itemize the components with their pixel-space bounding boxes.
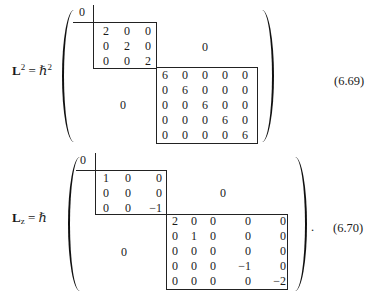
matrix-cell: −1 — [216, 259, 251, 274]
block-divider — [76, 170, 96, 171]
matrix-cell: 0 — [251, 244, 286, 259]
matrix-cell: 6 — [168, 83, 188, 98]
right-parenthesis — [295, 157, 307, 291]
matrix-cell: 0 — [208, 68, 228, 83]
matrix-cell: 0 — [158, 113, 168, 128]
matrix-cell: 2 — [131, 54, 151, 69]
matrix-cell: 0 — [169, 274, 178, 289]
matrix-cell: 0 — [208, 128, 228, 143]
matrix-cell: 0 — [178, 259, 197, 274]
left-parenthesis — [68, 157, 80, 291]
hbar-exponent: 2 — [47, 62, 52, 72]
matrix-cell: 0 — [251, 229, 286, 244]
matrix-cell: 0 — [208, 98, 228, 113]
matrix-cell: 0 — [110, 54, 130, 69]
operator-symbol: L — [12, 210, 21, 225]
matrix-cell: 0 — [216, 244, 251, 259]
matrix-cell: 6 — [228, 128, 248, 143]
matrix-cell: 2 — [97, 24, 109, 39]
block-divider — [73, 22, 94, 23]
block-3x3-values: 2 0 0 0 2 0 0 0 2 — [97, 24, 151, 69]
matrix-cell: 0 — [158, 83, 168, 98]
operator-symbol: L — [12, 63, 21, 78]
matrix-cell: 0 — [132, 186, 162, 201]
matrix-cell: 0 — [251, 259, 286, 274]
matrix-cell: 0 — [99, 201, 109, 216]
matrix-cell: 0 — [178, 244, 197, 259]
matrix-cell: 0 — [178, 214, 197, 229]
matrix-cell: 0 — [169, 259, 178, 274]
matrix-cell: 0 — [197, 244, 216, 259]
block-5x5-values: 2 0 0 0 0 0 1 0 0 0 0 0 0 0 0 0 0 0 −1 0… — [169, 214, 286, 289]
matrix-cell: 0 — [216, 274, 251, 289]
matrix-cell: 0 — [251, 214, 286, 229]
matrix-cell: 0 — [178, 274, 197, 289]
matrix-cell: 0 — [131, 24, 151, 39]
lhs-L-squared: L2 = ℏ2 — [12, 62, 52, 79]
matrix-cell: 1 — [99, 171, 109, 186]
left-parenthesis — [62, 10, 74, 142]
lhs-L-z: Lz = ℏ — [12, 210, 47, 226]
matrix-cell: 0 — [197, 259, 216, 274]
matrix-cell: 0 — [216, 229, 251, 244]
matrix-cell: 0 — [169, 229, 178, 244]
matrix-cell: 0 — [197, 214, 216, 229]
matrix-cell: 0 — [168, 98, 188, 113]
matrix-cell-top-left: 0 — [79, 5, 85, 20]
matrix-cell: 0 — [168, 128, 188, 143]
matrix-cell: 0 — [216, 214, 251, 229]
off-diagonal-zero-lower: 0 — [120, 98, 126, 113]
trailing-period: . — [311, 220, 314, 235]
matrix-cell: 0 — [168, 68, 188, 83]
block-divider — [95, 153, 96, 171]
matrix-cell: 0 — [110, 171, 131, 186]
matrix-cell: 0 — [197, 274, 216, 289]
matrix-cell-top-left: 0 — [80, 153, 86, 168]
off-diagonal-zero-upper: 0 — [202, 40, 208, 55]
matrix-cell: 0 — [97, 39, 109, 54]
matrix-cell: 0 — [188, 113, 208, 128]
block-3x3-values: 1 0 0 0 0 0 0 0 −1 — [99, 171, 162, 216]
matrix-cell: 0 — [158, 128, 168, 143]
block-divider — [93, 5, 94, 23]
matrix-cell: 0 — [97, 54, 109, 69]
subscript: z — [21, 216, 25, 226]
off-diagonal-zero-upper: 0 — [220, 186, 226, 201]
matrix-cell: 0 — [228, 98, 248, 113]
matrix-cell: 0 — [131, 39, 151, 54]
matrix-cell: 0 — [208, 83, 228, 98]
equals-sign: = — [28, 210, 35, 225]
matrix-cell: 0 — [110, 186, 131, 201]
right-parenthesis — [262, 10, 274, 142]
matrix-cell: 0 — [197, 229, 216, 244]
hbar-symbol: ℏ — [39, 210, 47, 225]
matrix-cell: 1 — [178, 229, 197, 244]
matrix-cell: 0 — [169, 244, 178, 259]
matrix-cell: 6 — [158, 68, 168, 83]
matrix-cell: 0 — [188, 68, 208, 83]
block-5x5-values: 6 0 0 0 0 0 6 0 0 0 0 0 6 0 0 0 0 0 6 0 … — [158, 68, 248, 143]
matrix-cell: 0 — [110, 24, 130, 39]
matrix-cell: 0 — [99, 186, 109, 201]
matrix-cell: 0 — [168, 113, 188, 128]
matrix-cell: 2 — [110, 39, 130, 54]
matrix-cell: 6 — [208, 113, 228, 128]
matrix-cell: 0 — [188, 83, 208, 98]
matrix-cell: 0 — [188, 128, 208, 143]
matrix-cell: 0 — [228, 68, 248, 83]
matrix-cell: 0 — [132, 171, 162, 186]
matrix-cell: −1 — [132, 201, 162, 216]
off-diagonal-zero-lower: 0 — [121, 245, 127, 260]
superscript: 2 — [21, 62, 26, 72]
equation-number: (6.69) — [334, 74, 364, 89]
equation-number: (6.70) — [333, 221, 363, 236]
matrix-cell: 0 — [228, 113, 248, 128]
matrix-cell: 0 — [110, 201, 131, 216]
matrix-cell: −2 — [251, 274, 286, 289]
matrix-cell: 2 — [169, 214, 178, 229]
matrix-cell: 0 — [228, 83, 248, 98]
matrix-cell: 0 — [158, 98, 168, 113]
matrix-cell: 6 — [188, 98, 208, 113]
equals-sign: = — [28, 63, 35, 78]
